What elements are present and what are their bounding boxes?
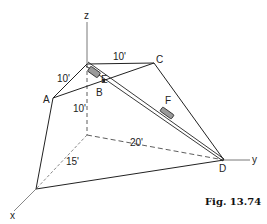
- point-E-label: E: [101, 75, 108, 85]
- dim-origin-D: 20': [130, 138, 143, 148]
- point-B-label: B: [96, 88, 103, 98]
- figure-caption: Fig. 13.74: [205, 196, 261, 207]
- collar-E: [87, 66, 100, 78]
- dim-top-C: 10': [113, 52, 126, 62]
- point-C-label: C: [156, 55, 163, 65]
- dim-origin-x: 15': [66, 157, 79, 167]
- point-A-label: A: [43, 95, 50, 105]
- dim-vertical: 10': [73, 104, 86, 114]
- point-F-label: F: [165, 96, 171, 106]
- edge-A-xpoint: [36, 98, 53, 189]
- z-axis-label: z: [84, 11, 89, 21]
- point-D-label: D: [219, 164, 226, 174]
- x-axis-label: x: [10, 211, 15, 221]
- x-axis-dashed: [36, 135, 87, 189]
- y-axis-label: y: [252, 155, 257, 165]
- structure-diagram: [0, 0, 267, 224]
- edge-xpoint-D: [36, 160, 224, 189]
- dim-top-A: 10': [57, 74, 70, 84]
- edge-top-C: [87, 63, 154, 64]
- x-axis: [14, 189, 36, 211]
- rod-edge-1: [88, 62, 224, 159]
- collar-F: [160, 107, 174, 119]
